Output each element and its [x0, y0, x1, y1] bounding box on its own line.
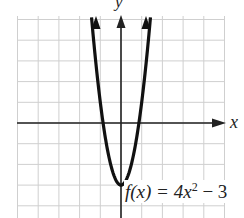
- function-label-main: f(x) = 4x: [125, 181, 192, 202]
- x-axis-arrow-icon: [212, 119, 226, 128]
- y-axis-arrow-icon: [117, 15, 126, 28]
- function-label: f(x) = 4x2 − 3: [124, 180, 228, 203]
- function-label-constant: − 3: [198, 181, 228, 202]
- x-axis-label: x: [230, 112, 238, 133]
- y-axis-label: y: [115, 0, 123, 12]
